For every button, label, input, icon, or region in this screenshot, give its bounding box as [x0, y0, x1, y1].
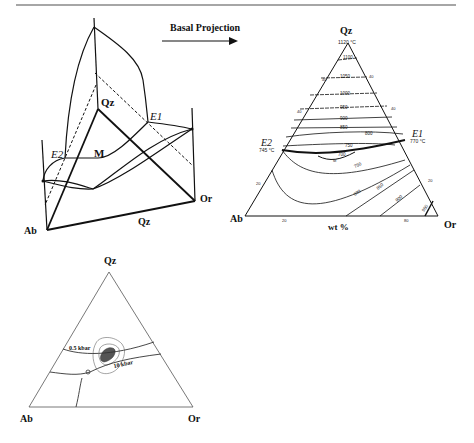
- lower-ternary: Qz Ab Or 0.5 kbar 10 kbar: [20, 255, 201, 424]
- solidus-lower-3: [93, 129, 192, 189]
- edge-tick-label: 40: [391, 106, 396, 111]
- arrow-head-icon: [229, 37, 238, 45]
- solidus-lower-2: [43, 180, 93, 189]
- edge-tick-label: 20: [256, 181, 261, 186]
- vertical-ab: [42, 140, 47, 230]
- projection-diagram: Qz 1120 °C Ab Or wt % E2 745 °C E1 770 °…: [230, 25, 457, 232]
- lower-label-qz: Qz: [104, 255, 117, 266]
- isotherm-label: 900: [394, 194, 403, 203]
- proj-label-or: Or: [444, 219, 457, 230]
- isotherm-label: 700: [338, 152, 346, 157]
- proj-label-m: M: [333, 158, 336, 163]
- isotherm-label: 950: [340, 105, 348, 110]
- isotherm-800: [286, 132, 403, 137]
- solidus-lower: [43, 129, 192, 189]
- proj-label-qz: Qz: [340, 25, 353, 36]
- isotherm-label: 750: [353, 161, 362, 169]
- edge-tick-label: 20: [428, 178, 433, 183]
- block-diagram: Qz Ab Or Qz E2 E1 M: [24, 18, 213, 236]
- block-label-or: Or: [200, 193, 213, 204]
- isotherm-label: 1000: [340, 91, 351, 96]
- edge-tick-label: 40: [369, 74, 374, 79]
- base-edge-ab-or: [47, 201, 195, 230]
- liquidus-left: [65, 27, 94, 158]
- boundary-left: [50, 372, 90, 374]
- cotectic-e2-ab: [43, 158, 65, 181]
- vertical-qz: [94, 18, 98, 109]
- block-label-e2: E2: [50, 148, 64, 160]
- basal-projection-arrow: Basal Projection: [162, 22, 241, 45]
- isotherm-label: 850: [340, 125, 348, 130]
- proj-label-ab: Ab: [230, 213, 243, 224]
- proj-apex-temp: 1120 °C: [338, 39, 356, 45]
- block-label-ab: Ab: [24, 225, 37, 236]
- point-or-melt: [191, 128, 194, 131]
- isotherm-label: 800: [365, 131, 373, 136]
- proj-e1-temp: 770 °C: [410, 138, 426, 144]
- block-label-m: M: [94, 147, 105, 159]
- arrow-label: Basal Projection: [170, 22, 241, 33]
- lower-label-or: Or: [188, 413, 201, 424]
- cotectic-e1-or: [148, 122, 192, 129]
- figure-canvas: Qz Ab Or Qz E2 E1 M Basal Projection Qz …: [0, 0, 474, 443]
- isotherm-label: 900: [340, 116, 348, 121]
- isotherm-label: 1100: [343, 55, 353, 60]
- proj-e2-temp: 745 °C: [259, 147, 275, 153]
- boundary-down: [76, 378, 82, 407]
- isotherm-label: 1050: [340, 74, 351, 79]
- vertical-or: [192, 108, 195, 201]
- proj-axis-label: wt %: [328, 222, 349, 232]
- block-label-qz-base: Qz: [138, 216, 151, 227]
- isotherm-label: 750: [345, 143, 353, 148]
- lower-label-ab: Ab: [20, 413, 33, 424]
- isotherm-800-lower: [272, 165, 410, 204]
- edge-tick-label: 40: [297, 109, 302, 114]
- density-contour-core: [100, 348, 115, 362]
- isotherm-label: 850: [375, 182, 384, 191]
- edge-tick-label: 40: [322, 77, 327, 82]
- block-label-qz-apex: Qz: [101, 96, 115, 108]
- isotherm-label: 800: [353, 188, 362, 197]
- label-10-kbar: 10 kbar: [113, 359, 134, 369]
- base-edge-ab-qz: [47, 109, 98, 230]
- edge-tick-label: 20: [282, 218, 287, 223]
- block-label-e1: E1: [149, 110, 162, 122]
- point-ab-melt: [42, 180, 45, 183]
- edge-tick-label: 80: [404, 218, 409, 223]
- lower-triangle: [29, 272, 193, 407]
- label-0-5-kbar: 0.5 kbar: [69, 345, 91, 351]
